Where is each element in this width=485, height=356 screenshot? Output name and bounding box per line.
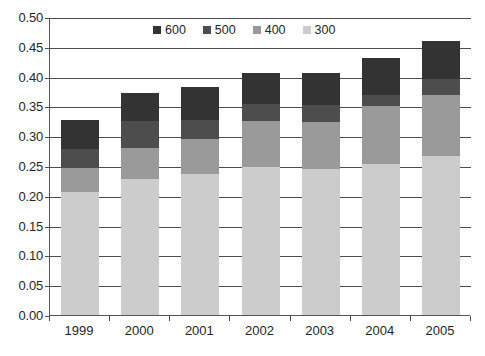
legend-label: 300: [315, 24, 336, 36]
legend-label: 600: [165, 24, 186, 36]
bar-segment-300[interactable]: [422, 156, 460, 315]
x-axis-tick-label: 1999: [49, 324, 109, 338]
bar-segment-600[interactable]: [302, 73, 340, 105]
x-axis-tick-label: 2000: [109, 324, 169, 338]
bar-segment-500[interactable]: [181, 120, 219, 139]
bar-stack[interactable]: [121, 93, 159, 315]
legend-swatch-icon: [253, 26, 261, 34]
bar-stack[interactable]: [422, 41, 460, 315]
legend-item-500[interactable]: 500: [203, 24, 236, 36]
x-axis-tick-label: 2004: [350, 324, 410, 338]
bar-segment-600[interactable]: [422, 41, 460, 79]
legend-item-400[interactable]: 400: [253, 24, 286, 36]
y-axis-tick-label: 0.15: [18, 220, 43, 233]
bar-segment-600[interactable]: [121, 93, 159, 121]
gridline: [50, 18, 471, 19]
y-axis-tick-label: 0.30: [18, 130, 43, 143]
x-axis-tick-mark: [169, 316, 170, 321]
bar-segment-400[interactable]: [121, 148, 159, 180]
gridline: [50, 48, 471, 49]
bar-stack[interactable]: [242, 73, 280, 315]
bar-segment-600[interactable]: [242, 73, 280, 104]
bar-stack[interactable]: [61, 120, 99, 315]
x-axis-tick-mark: [49, 316, 50, 321]
legend-item-300[interactable]: 300: [303, 24, 336, 36]
bar-segment-400[interactable]: [422, 95, 460, 156]
x-axis-tick-mark: [109, 316, 110, 321]
x-axis-tick-mark: [350, 316, 351, 321]
x-axis-tick-mark: [410, 316, 411, 321]
y-axis-tick-label: 0.00: [18, 309, 43, 322]
bar-segment-500[interactable]: [121, 121, 159, 148]
legend-swatch-icon: [153, 26, 161, 34]
bar-segment-400[interactable]: [362, 106, 400, 164]
y-axis-tick-label: 0.35: [18, 100, 43, 113]
x-axis-tick-label: 2003: [290, 324, 350, 338]
bar-stack[interactable]: [302, 73, 340, 315]
legend-swatch-icon: [203, 26, 211, 34]
bar-stack[interactable]: [181, 87, 219, 315]
y-axis-tick-label: 0.10: [18, 249, 43, 262]
x-axis-tick-mark: [290, 316, 291, 321]
bar-segment-300[interactable]: [302, 169, 340, 315]
bar-segment-600[interactable]: [61, 120, 99, 150]
x-axis-tick-label: 2002: [230, 324, 290, 338]
plot-area: [49, 18, 470, 316]
bar-segment-300[interactable]: [61, 192, 99, 315]
x-axis-tick-label: 2001: [169, 324, 229, 338]
x-axis-tick-label: 2005: [410, 324, 470, 338]
bar-segment-400[interactable]: [181, 139, 219, 175]
bar-segment-600[interactable]: [181, 87, 219, 119]
y-axis-tick-label: 0.25: [18, 160, 43, 173]
legend-item-600[interactable]: 600: [153, 24, 186, 36]
bar-segment-300[interactable]: [121, 179, 159, 315]
y-axis-tick-label: 0.50: [18, 11, 43, 24]
legend-label: 400: [265, 24, 286, 36]
bar-segment-500[interactable]: [422, 79, 460, 95]
bar-segment-400[interactable]: [302, 122, 340, 169]
bar-segment-500[interactable]: [302, 105, 340, 122]
y-axis-tick-label: 0.45: [18, 41, 43, 54]
bar-segment-500[interactable]: [242, 104, 280, 121]
bar-segment-300[interactable]: [242, 167, 280, 315]
stacked-bar-chart: 0.500.450.400.350.300.250.200.150.100.05…: [0, 0, 485, 356]
y-axis-tick-label: 0.20: [18, 190, 43, 203]
y-axis-tick-label: 0.40: [18, 71, 43, 84]
x-axis-tick-mark: [229, 316, 230, 321]
y-axis-tick-label: 0.05: [18, 279, 43, 292]
bar-stack[interactable]: [362, 58, 400, 315]
bar-segment-300[interactable]: [181, 174, 219, 315]
legend-label: 500: [215, 24, 236, 36]
bar-segment-300[interactable]: [362, 164, 400, 315]
x-axis-tick-mark: [470, 316, 471, 321]
bar-segment-600[interactable]: [362, 58, 400, 95]
bar-segment-500[interactable]: [362, 95, 400, 107]
y-axis-tick-labels: 0.500.450.400.350.300.250.200.150.100.05…: [0, 0, 43, 356]
bar-segment-400[interactable]: [61, 168, 99, 192]
bar-segment-500[interactable]: [61, 149, 99, 168]
bar-segment-400[interactable]: [242, 121, 280, 167]
legend-swatch-icon: [303, 26, 311, 34]
chart-legend: 600500400300: [153, 24, 335, 36]
